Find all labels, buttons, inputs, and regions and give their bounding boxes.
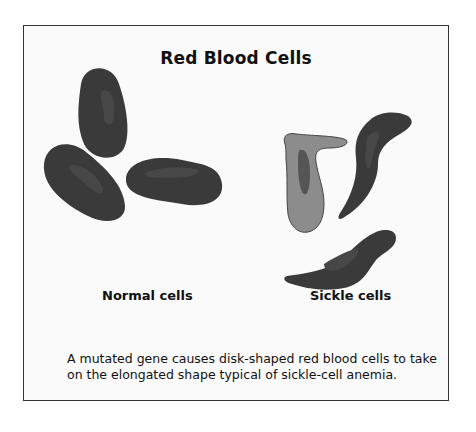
normal-cell-right	[126, 158, 222, 205]
sickle-cell-bottom	[284, 230, 396, 290]
normal-cells-label: Normal cells	[102, 288, 193, 303]
sickle-cell-light	[284, 133, 347, 232]
cells-illustration	[24, 26, 450, 402]
diagram-frame: Red Blood Cells	[23, 25, 449, 401]
sickle-cell-top-right	[339, 113, 412, 219]
sickle-cells-group	[284, 113, 411, 290]
sickle-cells-label: Sickle cells	[310, 288, 391, 303]
normal-cell-top	[78, 68, 127, 157]
normal-cells-group	[44, 68, 222, 221]
diagram-caption: A mutated gene causes disk-shaped red bl…	[67, 351, 437, 383]
